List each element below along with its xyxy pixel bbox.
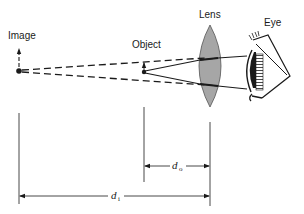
eye-icon bbox=[247, 31, 290, 101]
d-o-subscript: o bbox=[179, 165, 183, 173]
image-label: Image bbox=[8, 30, 36, 41]
virtual-rays bbox=[22, 58, 205, 85]
d-o-label: d bbox=[172, 159, 178, 171]
d-i-subscript: i bbox=[118, 195, 120, 203]
lens-label: Lens bbox=[199, 9, 221, 20]
magnifier-ray-diagram: Image Object Lens Eye d bbox=[0, 0, 304, 214]
object-dot bbox=[142, 70, 146, 74]
image-dot bbox=[16, 68, 22, 74]
d-i-label: d bbox=[111, 189, 117, 201]
image-point bbox=[16, 49, 22, 74]
eye-label: Eye bbox=[264, 17, 282, 28]
lens bbox=[199, 25, 221, 107]
object-point bbox=[142, 63, 146, 74]
object-label: Object bbox=[132, 39, 161, 50]
